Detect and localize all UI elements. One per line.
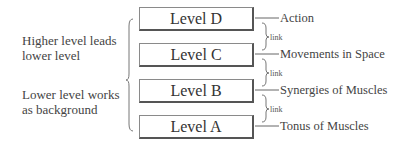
left-brace-icon bbox=[126, 19, 133, 131]
level-d-description: Action bbox=[280, 11, 314, 25]
link-brace-icon bbox=[262, 59, 269, 86]
level-c-label: Level C bbox=[170, 46, 221, 64]
level-d-label: Level D bbox=[170, 10, 222, 28]
link-brace-icon bbox=[262, 23, 269, 50]
link-label-cb: link bbox=[270, 69, 282, 78]
level-c-box: Level C bbox=[139, 43, 254, 67]
level-a-label: Level A bbox=[170, 118, 221, 136]
link-brace-icon bbox=[262, 95, 269, 122]
level-d-box: Level D bbox=[139, 7, 254, 31]
link-label-ba: link bbox=[270, 105, 282, 114]
level-c-description: Movements in Space bbox=[280, 47, 385, 61]
level-b-label: Level B bbox=[170, 82, 221, 100]
level-b-description: Synergies of Muscles bbox=[280, 83, 387, 97]
level-b-box: Level B bbox=[139, 79, 254, 103]
link-label-dc: link bbox=[270, 33, 282, 42]
level-a-description: Tonus of Muscles bbox=[280, 119, 369, 133]
level-a-box: Level A bbox=[139, 115, 254, 139]
